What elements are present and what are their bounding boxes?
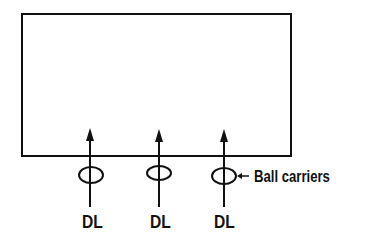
dl-label-1: DL	[82, 212, 103, 231]
left-arrow-icon	[237, 173, 249, 179]
dl-label-3: DL	[214, 212, 235, 231]
field-box	[22, 14, 291, 156]
dl-rush-arrow-2	[155, 129, 163, 207]
dl-label-2: DL	[150, 212, 171, 231]
diagram-canvas	[0, 0, 369, 248]
ball-carriers-label: Ball carriers	[254, 169, 330, 185]
